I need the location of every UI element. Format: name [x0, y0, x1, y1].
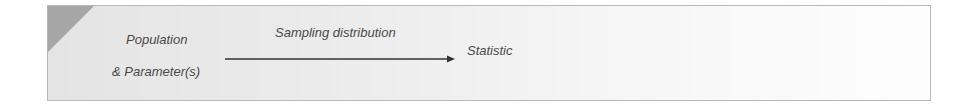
corner-accent-triangle: [48, 6, 94, 52]
source-node-line2: & Parameter(s): [112, 64, 200, 79]
edge-label: Sampling distribution: [275, 25, 396, 40]
source-node-line1: Population: [126, 32, 187, 47]
target-node: Statistic: [467, 43, 513, 58]
arrow-right-icon: [225, 55, 455, 63]
diagram-panel: Population & Parameter(s) Sampling distr…: [47, 5, 931, 101]
